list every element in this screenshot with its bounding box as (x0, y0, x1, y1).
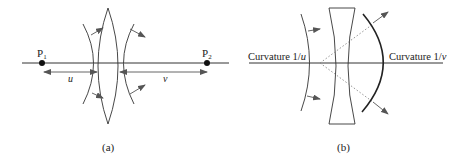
distance-u-label: u (68, 73, 73, 84)
figure-b: Curvature 1/u Curvature 1/v (b) (248, 8, 447, 154)
arrow-icon (373, 12, 388, 23)
distance-v-label: v (163, 73, 168, 84)
arrow-icon (130, 29, 145, 37)
dotted-ray-lower (320, 63, 373, 102)
curvature-v-label: Curvature 1/v (389, 51, 447, 62)
lens-diagram: P1 P2 u v (a) Curvature 1/u Curvature 1/… (0, 0, 467, 162)
figure-a: P1 P2 u v (a) (22, 8, 229, 154)
arrow-icon (373, 102, 388, 114)
wavefront-incoming (83, 24, 94, 104)
wavefront-outgoing (124, 24, 135, 104)
caption-b: (b) (337, 141, 350, 154)
arrow-icon (130, 85, 145, 94)
point-p2-label: P2 (202, 47, 212, 61)
arrow-icon (308, 29, 320, 31)
dotted-ray-upper (320, 24, 373, 63)
caption-a: (a) (102, 141, 115, 154)
point-p1-label: P1 (37, 47, 47, 61)
curvature-u-label: Curvature 1/u (248, 51, 306, 62)
concave-lens (329, 8, 355, 124)
arrow-icon (92, 93, 103, 98)
arrow-icon (307, 96, 320, 99)
convex-lens (98, 8, 118, 124)
